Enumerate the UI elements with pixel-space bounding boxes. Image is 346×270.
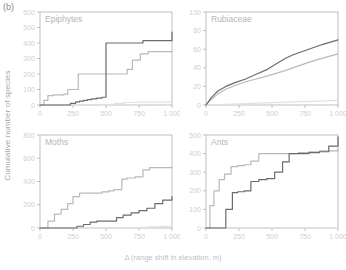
svg-text:500: 500 [266, 233, 278, 240]
y-axis-label-text: Cumulative number of species [3, 70, 12, 180]
svg-text:100: 100 [23, 86, 35, 93]
svg-text:250: 250 [67, 110, 79, 117]
svg-text:1 000: 1 000 [329, 233, 346, 240]
svg-text:40: 40 [193, 64, 201, 71]
svg-text:100: 100 [189, 206, 201, 213]
svg-text:0: 0 [31, 102, 35, 109]
series-line-series-mid [206, 54, 338, 105]
svg-text:60: 60 [193, 46, 201, 53]
svg-text:500: 500 [100, 110, 112, 117]
svg-text:600: 600 [23, 9, 35, 16]
plot-epiphytes: 010020030040050060002505007501 000 [14, 4, 180, 127]
subplot-rubiaceae: 02040608010002505007501 000Rubiaceae [180, 4, 346, 127]
subplot-epiphytes: 010020030040050060002505007501 000Epiphy… [14, 4, 180, 127]
y-axis-label: Cumulative number of species [0, 0, 14, 250]
svg-text:800: 800 [23, 132, 35, 139]
svg-text:0: 0 [197, 225, 201, 232]
svg-text:750: 750 [299, 233, 311, 240]
svg-text:400: 400 [189, 150, 201, 157]
svg-text:0: 0 [38, 110, 42, 117]
series-line-series-dark [206, 137, 338, 228]
subplot-grid: 010020030040050060002505007501 000Epiphy… [14, 4, 346, 250]
svg-text:0: 0 [38, 233, 42, 240]
series-line-series-dark [40, 197, 172, 228]
series-line-series-dark [206, 40, 338, 105]
svg-text:250: 250 [233, 233, 245, 240]
subplot-ants: 010020030040050002505007501 000Ants [180, 127, 346, 250]
svg-text:250: 250 [233, 110, 245, 117]
subplot-moths: 020040060080002505007501 000Moths [14, 127, 180, 250]
svg-text:80: 80 [193, 27, 201, 34]
svg-text:250: 250 [67, 233, 79, 240]
svg-text:750: 750 [299, 110, 311, 117]
svg-text:200: 200 [189, 187, 201, 194]
svg-text:0: 0 [204, 110, 208, 117]
x-axis-label: Δ (range shift in elevation, m) [0, 253, 346, 262]
svg-text:500: 500 [189, 132, 201, 139]
svg-text:20: 20 [193, 83, 201, 90]
svg-text:500: 500 [100, 233, 112, 240]
svg-text:200: 200 [23, 201, 35, 208]
figure-panel-b: (b) Cumulative number of species 0100200… [0, 0, 346, 270]
svg-text:1 000: 1 000 [163, 233, 180, 240]
svg-text:400: 400 [23, 178, 35, 185]
series-line-series-dark [40, 32, 172, 105]
series-line-series-mid [40, 168, 172, 228]
svg-text:0: 0 [197, 102, 201, 109]
svg-text:200: 200 [23, 71, 35, 78]
svg-text:0: 0 [204, 233, 208, 240]
svg-text:0: 0 [31, 225, 35, 232]
svg-text:300: 300 [189, 169, 201, 176]
svg-text:1 000: 1 000 [329, 110, 346, 117]
svg-text:1 000: 1 000 [163, 110, 180, 117]
svg-text:100: 100 [189, 9, 201, 16]
plot-ants: 010020030040050002505007501 000 [180, 127, 346, 250]
svg-text:500: 500 [266, 110, 278, 117]
svg-text:750: 750 [133, 110, 145, 117]
series-line-series-light [206, 100, 338, 105]
svg-text:300: 300 [23, 55, 35, 62]
svg-text:400: 400 [23, 40, 35, 47]
svg-text:750: 750 [133, 233, 145, 240]
svg-text:500: 500 [23, 24, 35, 31]
plot-rubiaceae: 02040608010002505007501 000 [180, 4, 346, 127]
svg-text:600: 600 [23, 155, 35, 162]
plot-moths: 020040060080002505007501 000 [14, 127, 180, 250]
